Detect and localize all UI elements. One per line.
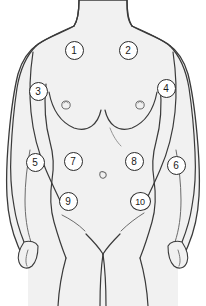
marker-2[interactable]: 2 bbox=[119, 41, 138, 60]
marker-1[interactable]: 1 bbox=[65, 41, 84, 60]
marker-10[interactable]: 10 bbox=[130, 192, 151, 211]
marker-4[interactable]: 4 bbox=[157, 79, 176, 98]
marker-3[interactable]: 3 bbox=[29, 82, 48, 101]
marker-6[interactable]: 6 bbox=[167, 156, 186, 175]
body-diagram: 12345678910 bbox=[0, 0, 206, 306]
body-interior-fill bbox=[28, 240, 178, 306]
lower-body-fill bbox=[28, 240, 178, 306]
marker-7[interactable]: 7 bbox=[64, 152, 83, 171]
marker-5[interactable]: 5 bbox=[26, 153, 45, 172]
marker-9[interactable]: 9 bbox=[59, 192, 78, 211]
marker-8[interactable]: 8 bbox=[125, 152, 144, 171]
